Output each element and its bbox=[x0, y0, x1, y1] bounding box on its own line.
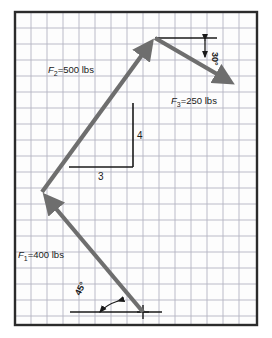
label-f2-value: =500 lbs bbox=[58, 64, 94, 75]
label-slope-run: 3 bbox=[98, 171, 104, 182]
force-vector-diagram: F1=400 lbs F2=500 lbs F3=250 lbs 4 3 45°… bbox=[0, 0, 272, 338]
label-slope-rise: 4 bbox=[137, 130, 143, 141]
label-angle-30: 30° bbox=[210, 52, 220, 66]
diagram-canvas: F1=400 lbs F2=500 lbs F3=250 lbs 4 3 45°… bbox=[0, 0, 272, 338]
label-f1-value: =400 lbs bbox=[28, 249, 64, 260]
label-f3-value: =250 lbs bbox=[181, 95, 217, 106]
